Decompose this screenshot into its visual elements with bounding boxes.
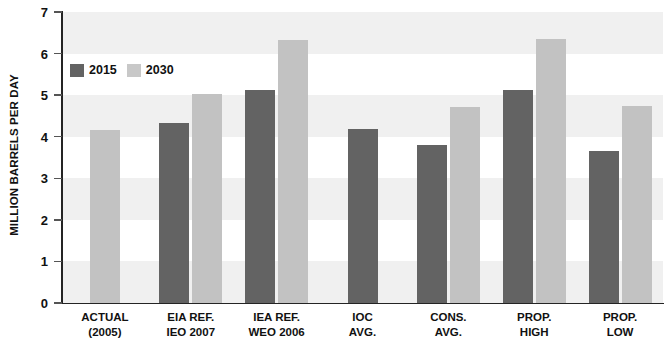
- y-tick-label: 4: [8, 129, 48, 144]
- y-tick-label: 5: [8, 88, 48, 103]
- x-axis-category-label: IEA REF.WEO 2006: [234, 310, 320, 339]
- x-axis-category-label: PROP.HIGH: [491, 310, 577, 339]
- bar-2015: [417, 145, 447, 303]
- x-axis-category-label-line: IEA REF.: [234, 310, 320, 325]
- y-tick-mark: [54, 261, 62, 262]
- x-axis-category-label-line: PROP.: [577, 310, 663, 325]
- background-band: [62, 12, 663, 54]
- bar-2030: [536, 39, 566, 303]
- bar-2015: [589, 151, 619, 303]
- y-tick-mark: [54, 53, 62, 54]
- x-axis-category-label: PROP.LOW: [577, 310, 663, 339]
- x-axis-category-label-line: WEO 2006: [234, 325, 320, 340]
- y-tick-label: 6: [8, 46, 48, 61]
- y-tick-mark: [54, 219, 62, 220]
- x-axis-category-label-line: LOW: [577, 325, 663, 340]
- legend-item-2030: 2030: [127, 63, 174, 77]
- x-axis-category-label-line: PROP.: [491, 310, 577, 325]
- legend-item-2015: 2015: [70, 63, 117, 77]
- y-tick-label: 0: [8, 296, 48, 311]
- x-axis-category-label-line: IEO 2007: [148, 325, 234, 340]
- bar-2030: [192, 94, 222, 303]
- y-tick-label: 1: [8, 254, 48, 269]
- bar-2015: [245, 90, 275, 303]
- x-axis-category-label: CONS.AVG.: [405, 310, 491, 339]
- x-axis-category-label: ACTUAL(2005): [62, 310, 148, 339]
- y-tick-mark: [54, 302, 62, 303]
- bar-2030: [90, 130, 120, 303]
- x-axis-category-label: IOCAVG.: [320, 310, 406, 339]
- legend-swatch-icon: [127, 64, 141, 77]
- legend-label: 2030: [146, 63, 174, 77]
- y-tick-mark: [54, 178, 62, 179]
- legend-swatch-icon: [70, 64, 84, 77]
- bar-2030: [622, 106, 652, 303]
- y-tick-label: 7: [8, 5, 48, 20]
- bar-2015: [503, 90, 533, 303]
- x-axis-category-label-line: HIGH: [491, 325, 577, 340]
- x-axis-category-label-line: CONS.: [405, 310, 491, 325]
- bar-2030: [450, 107, 480, 303]
- y-tick-label: 3: [8, 171, 48, 186]
- x-axis-category-label-line: IOC: [320, 310, 406, 325]
- y-tick-mark: [54, 94, 62, 95]
- legend: 20152030: [70, 63, 174, 77]
- x-axis-category-label-line: ACTUAL: [62, 310, 148, 325]
- y-tick-mark: [54, 136, 62, 137]
- x-axis-category-label-line: (2005): [62, 325, 148, 340]
- x-axis-category-label: EIA REF.IEO 2007: [148, 310, 234, 339]
- y-tick-mark: [54, 11, 62, 12]
- legend-label: 2015: [89, 63, 117, 77]
- bar-2030: [278, 40, 308, 303]
- x-axis-category-label-line: AVG.: [405, 325, 491, 340]
- bar-chart: MILLION BARRELS PER DAY 01234567 ACTUAL(…: [0, 0, 666, 349]
- y-tick-label: 2: [8, 212, 48, 227]
- bar-2015: [159, 123, 189, 303]
- x-axis-category-label-line: EIA REF.: [148, 310, 234, 325]
- bar-2015: [348, 129, 378, 303]
- x-axis-category-label-line: AVG.: [320, 325, 406, 340]
